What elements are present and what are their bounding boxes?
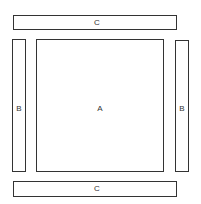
region-c-bottom-label: C [94,185,100,193]
region-a-label: A [97,105,102,113]
region-b-right-label: B [179,105,184,113]
region-b-left-label: B [16,105,21,113]
region-c-top-label: C [94,19,100,27]
